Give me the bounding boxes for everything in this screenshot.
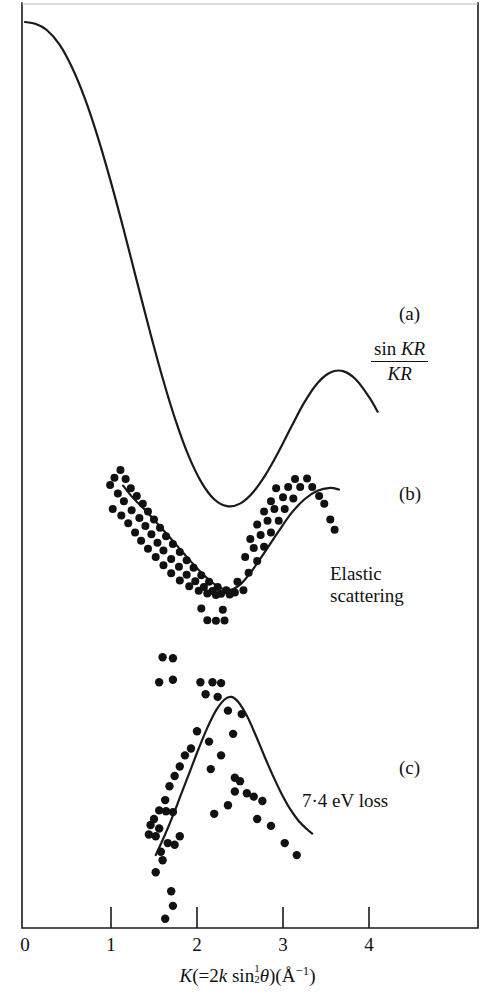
data-point	[109, 505, 117, 513]
data-point	[158, 856, 166, 864]
data-point	[162, 532, 170, 540]
data-point	[176, 577, 184, 585]
data-point	[239, 586, 247, 594]
panel-a-label: (a)	[399, 303, 420, 325]
axis-title-end: )	[309, 965, 315, 986]
data-point	[212, 617, 220, 625]
panel-b-caption-line2: scattering	[330, 585, 404, 607]
data-point	[159, 547, 167, 555]
x-axis-tick-label: 4	[354, 934, 384, 956]
axis-title-exponent: −1	[295, 963, 309, 978]
data-point	[250, 544, 258, 552]
data-point	[217, 679, 225, 687]
data-point	[137, 537, 145, 545]
data-point	[183, 571, 191, 579]
data-point	[152, 832, 160, 840]
x-axis-tick-label: 1	[96, 934, 126, 956]
data-point	[116, 466, 124, 474]
data-point	[284, 483, 292, 491]
data-point	[217, 751, 225, 759]
data-point	[326, 515, 334, 523]
data-point	[231, 787, 239, 795]
data-point	[169, 902, 177, 910]
data-point	[152, 553, 160, 561]
data-point	[144, 545, 152, 553]
data-point	[122, 475, 130, 483]
axis-title-open: (=2	[192, 965, 219, 986]
data-point	[208, 678, 216, 686]
data-point	[152, 868, 160, 876]
data-point	[224, 706, 232, 714]
data-point	[196, 678, 204, 686]
plot-frame	[22, 3, 478, 928]
data-point	[224, 801, 232, 809]
data-point	[124, 519, 132, 527]
data-point	[169, 540, 177, 548]
formula-kr-numerator: KR	[401, 338, 425, 359]
data-point	[257, 531, 265, 539]
data-point	[155, 824, 163, 832]
data-point	[275, 517, 283, 525]
axis-title-wavevector: k	[219, 965, 227, 986]
data-point	[139, 500, 147, 508]
data-point	[128, 506, 136, 514]
data-point	[161, 796, 169, 804]
formula-denominator: KR	[371, 362, 428, 385]
panel-b-label: (b)	[399, 483, 421, 505]
data-point	[190, 564, 198, 572]
figure-root: (a) (b) (c) sin KR KR Elastic scattering…	[0, 0, 495, 1004]
data-point	[176, 832, 184, 840]
data-point	[144, 508, 152, 516]
data-point	[131, 528, 139, 536]
data-point	[331, 526, 339, 534]
data-point	[197, 604, 205, 612]
curve-sin-kr-over-kr	[25, 22, 378, 506]
data-point	[117, 512, 125, 520]
data-point	[183, 556, 191, 564]
data-point	[207, 765, 215, 773]
data-point	[155, 678, 163, 686]
data-point	[229, 730, 237, 738]
data-point	[110, 474, 118, 482]
data-point	[193, 727, 201, 735]
data-points-elastic-scattering	[106, 466, 338, 625]
data-point	[157, 847, 165, 855]
data-point	[272, 484, 280, 492]
data-point	[289, 495, 297, 503]
data-point	[226, 591, 234, 599]
data-point	[195, 587, 203, 595]
x-axis-ticks	[111, 907, 369, 928]
data-point	[250, 792, 258, 800]
data-point	[167, 569, 175, 577]
data-point	[165, 782, 173, 790]
data-point	[264, 517, 272, 525]
data-point	[258, 797, 266, 805]
panel-c-label: (c)	[399, 757, 420, 779]
data-point	[303, 474, 311, 482]
axis-title-close: )(Å	[269, 965, 295, 986]
x-axis-tick-label: 0	[10, 934, 40, 956]
axis-title-sin: sin	[227, 965, 254, 986]
formula-sin: sin	[374, 338, 396, 359]
data-point	[233, 578, 241, 586]
data-point	[167, 555, 175, 563]
data-point	[281, 505, 289, 513]
data-point	[185, 582, 193, 590]
data-point	[203, 590, 211, 598]
data-point	[315, 492, 323, 500]
data-point	[260, 508, 268, 516]
data-point	[176, 762, 184, 770]
data-point	[308, 483, 316, 491]
data-point	[270, 505, 278, 513]
data-point	[238, 710, 246, 718]
data-point	[141, 522, 149, 530]
data-point	[253, 521, 261, 529]
data-point	[245, 569, 253, 577]
data-point	[156, 524, 164, 532]
data-point	[175, 563, 183, 571]
data-point	[279, 493, 287, 501]
panel-b-caption: Elastic scattering	[330, 563, 404, 608]
formula-numerator: sin KR	[371, 338, 428, 362]
data-point	[203, 616, 211, 624]
data-point	[293, 851, 301, 859]
